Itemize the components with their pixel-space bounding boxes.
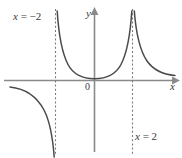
rational-function-figure: x = −2 x = 2 y x 0 xyxy=(0,0,182,158)
asymptote-label-x-neg2: x = −2 xyxy=(13,11,41,22)
y-axis-label: y xyxy=(86,8,91,19)
curve-right-branch xyxy=(134,11,175,76)
x-axis-label: x xyxy=(170,81,175,92)
asymptote-label-x-pos2-value: = 2 xyxy=(140,130,157,142)
asymptote-label-x-pos2: x = 2 xyxy=(135,131,157,142)
asymptote-label-x-neg2-value: = −2 xyxy=(18,10,41,22)
y-axis-arrowhead xyxy=(91,7,99,15)
origin-label: 0 xyxy=(85,82,90,92)
curve-left-branch xyxy=(10,87,54,157)
